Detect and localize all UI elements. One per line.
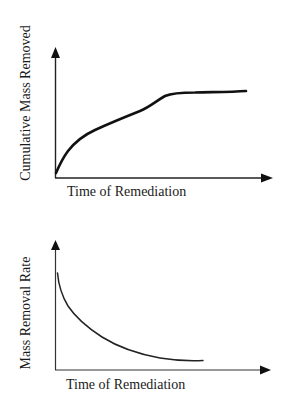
cumulative-curve xyxy=(56,91,246,173)
mass-removal-rate-chart: Time of Remediation Mass Removal Rate xyxy=(18,240,271,392)
x-axis-label: Time of Remediation xyxy=(66,377,185,392)
y-axis-label: Mass Removal Rate xyxy=(18,257,33,370)
x-axis-label: Time of Remediation xyxy=(67,184,186,199)
y-axis-arrow-icon xyxy=(51,47,60,58)
y-axis-label: Cumulative Mass Removed xyxy=(18,25,33,181)
rate-curve xyxy=(58,273,204,361)
y-axis-arrow-icon xyxy=(51,240,60,250)
figure: Time of Remediation Cumulative Mass Remo… xyxy=(0,0,287,408)
cumulative-mass-chart: Time of Remediation Cumulative Mass Remo… xyxy=(18,25,273,199)
x-axis-arrow-icon xyxy=(261,174,273,183)
x-axis-arrow-icon xyxy=(260,366,271,375)
